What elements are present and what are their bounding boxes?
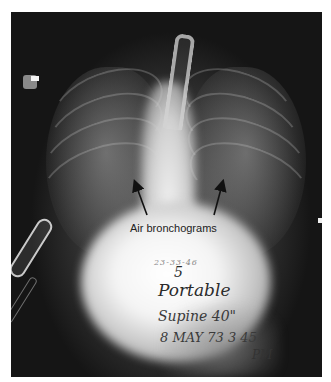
annotation-arrows [0,0,331,382]
arrow-left-icon [136,185,147,215]
arrow-right-icon [214,185,222,215]
annotation-label: Air bronchograms [130,222,217,234]
